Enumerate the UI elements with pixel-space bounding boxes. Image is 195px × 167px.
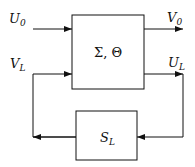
block-diagram: Σ, Θ SL U0 V0 VL UL <box>0 0 195 167</box>
main-block-label: Σ, Θ <box>94 45 122 60</box>
load-block-label: SL <box>100 130 115 147</box>
u0-label: U0 <box>9 11 26 28</box>
ul-label: UL <box>168 55 185 72</box>
vl-feedback-line <box>33 74 76 137</box>
vl-label: VL <box>10 56 25 73</box>
v0-label: V0 <box>167 10 182 27</box>
